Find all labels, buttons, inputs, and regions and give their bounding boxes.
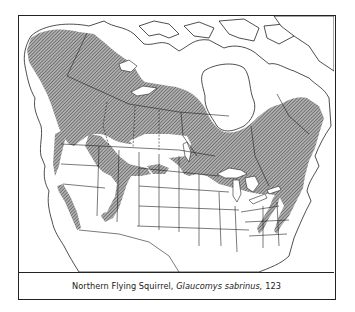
figure-frame: Northern Flying Squirrel, Glaucomys sabr… [18, 15, 336, 300]
arctic-islands [139, 19, 294, 44]
scientific-name: Glaucomys sabrinus, [176, 281, 262, 291]
caption-box: Northern Flying Squirrel, Glaucomys sabr… [19, 272, 334, 299]
map-number: 123 [265, 281, 281, 291]
greenland [274, 16, 334, 71]
range-map [19, 16, 334, 272]
common-name: Northern Flying Squirrel, [72, 281, 173, 291]
map-svg [19, 16, 334, 272]
map-caption: Northern Flying Squirrel, Glaucomys sabr… [72, 281, 281, 291]
